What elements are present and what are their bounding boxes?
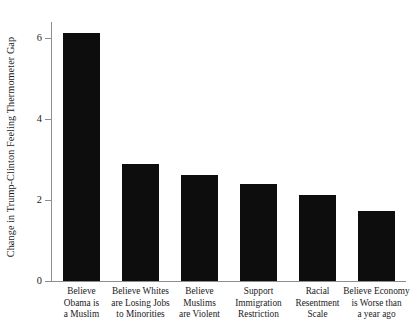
bar — [358, 211, 395, 281]
x-axis-label-line: is Worse than — [341, 298, 413, 310]
bar-chart: Change in Trump-Clinton Feeling Thermome… — [0, 0, 413, 333]
y-tick-mark — [45, 38, 51, 39]
x-axis-label: Believe Economyis Worse thana year ago — [341, 286, 413, 321]
y-tick-label: 6 — [8, 33, 42, 43]
x-axis-label-line: a year ago — [341, 309, 413, 321]
y-tick-label-wrap: 2 — [0, 195, 42, 205]
x-axis-label-line: Believe Economy — [341, 286, 413, 298]
bar — [122, 164, 159, 281]
y-tick-mark — [45, 200, 51, 201]
bar — [181, 175, 218, 281]
y-tick-label-wrap: 4 — [0, 114, 42, 124]
y-tick-label-wrap: 6 — [0, 33, 42, 43]
bar — [63, 33, 100, 281]
bar — [299, 195, 336, 281]
plot-area — [52, 22, 406, 281]
y-tick-mark — [45, 119, 51, 120]
y-tick-label: 4 — [8, 114, 42, 124]
y-tick-label-wrap: 0 — [0, 276, 42, 286]
x-axis-labels: BelieveObama isa MuslimBelieve Whitesare… — [52, 286, 406, 330]
y-tick-label: 2 — [8, 195, 42, 205]
y-tick-label: 0 — [8, 276, 42, 286]
y-tick-mark — [45, 281, 51, 282]
bar — [240, 184, 277, 281]
y-axis-title: Change in Trump-Clinton Feeling Thermome… — [2, 2, 18, 292]
x-axis-line — [51, 281, 406, 282]
